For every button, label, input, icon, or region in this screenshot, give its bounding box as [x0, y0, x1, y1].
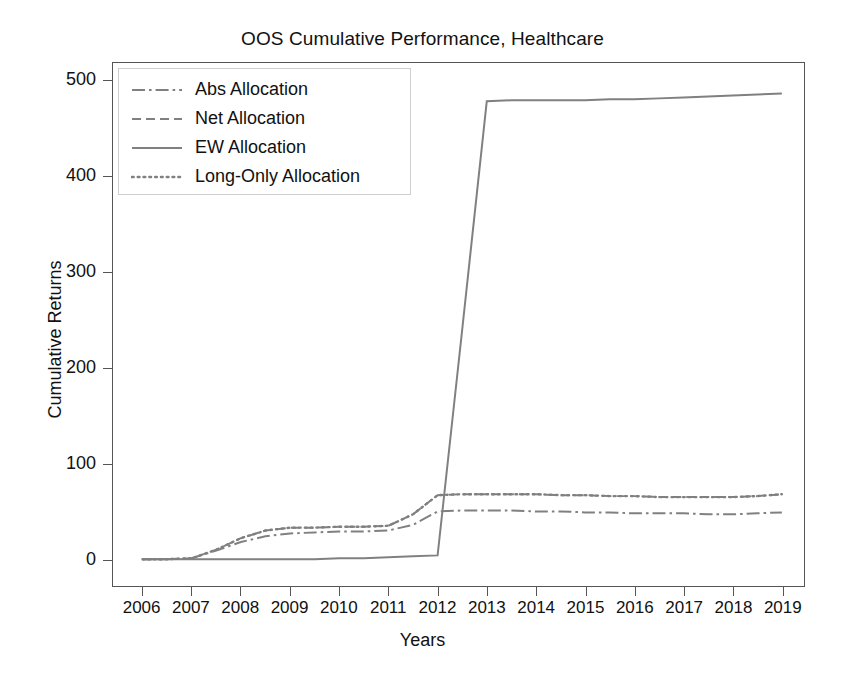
x-tick-label: 2018 — [708, 598, 758, 618]
chart-figure: OOS Cumulative Performance, Healthcare C… — [0, 0, 845, 682]
legend-label: Net Allocation — [195, 108, 305, 129]
x-tick-mark — [142, 587, 143, 596]
legend-item: EW Allocation — [131, 133, 400, 162]
y-tick-mark — [103, 368, 112, 369]
y-tick-mark — [103, 176, 112, 177]
y-tick-label: 400 — [36, 165, 96, 186]
y-tick-mark — [103, 464, 112, 465]
y-axis-tick-labels: 0100200300400500 — [34, 62, 96, 587]
series-line — [143, 494, 782, 559]
x-tick-label: 2009 — [265, 598, 315, 618]
x-axis-tick-marks — [112, 587, 805, 597]
legend-line-icon — [131, 112, 183, 126]
x-tick-mark — [388, 587, 389, 596]
y-tick-mark — [103, 272, 112, 273]
x-axis-tick-labels: 2006200720082009201020112012201320142015… — [112, 598, 805, 624]
x-tick-mark — [339, 587, 340, 596]
y-tick-label: 0 — [36, 549, 96, 570]
x-tick-label: 2013 — [462, 598, 512, 618]
x-tick-mark — [586, 587, 587, 596]
y-tick-mark — [103, 80, 112, 81]
series-line — [143, 494, 782, 559]
legend-line-icon — [131, 141, 183, 155]
x-tick-label: 2016 — [610, 598, 660, 618]
x-tick-mark — [536, 587, 537, 596]
x-tick-label: 2010 — [314, 598, 364, 618]
legend-item: Long-Only Allocation — [131, 162, 400, 191]
x-tick-label: 2019 — [758, 598, 808, 618]
chart-title: OOS Cumulative Performance, Healthcare — [0, 28, 845, 50]
x-tick-label: 2014 — [511, 598, 561, 618]
x-tick-mark — [191, 587, 192, 596]
x-tick-mark — [438, 587, 439, 596]
x-axis-label: Years — [0, 630, 845, 651]
x-tick-label: 2007 — [166, 598, 216, 618]
x-tick-mark — [684, 587, 685, 596]
legend-line-icon — [131, 83, 183, 97]
legend-item: Abs Allocation — [131, 75, 400, 104]
x-tick-mark — [733, 587, 734, 596]
x-tick-label: 2017 — [659, 598, 709, 618]
x-tick-label: 2011 — [363, 598, 413, 618]
legend-line-icon — [131, 170, 183, 184]
x-tick-label: 2015 — [561, 598, 611, 618]
x-tick-mark — [240, 587, 241, 596]
y-tick-label: 100 — [36, 453, 96, 474]
chart-legend: Abs AllocationNet AllocationEW Allocatio… — [118, 68, 411, 195]
x-tick-label: 2006 — [117, 598, 167, 618]
y-tick-label: 200 — [36, 357, 96, 378]
x-tick-mark — [783, 587, 784, 596]
y-tick-label: 300 — [36, 261, 96, 282]
legend-label: Long-Only Allocation — [195, 166, 360, 187]
y-tick-mark — [103, 560, 112, 561]
legend-label: EW Allocation — [195, 137, 306, 158]
x-tick-label: 2012 — [413, 598, 463, 618]
x-tick-mark — [487, 587, 488, 596]
legend-item: Net Allocation — [131, 104, 400, 133]
series-line — [143, 510, 782, 559]
x-tick-mark — [290, 587, 291, 596]
legend-label: Abs Allocation — [195, 79, 308, 100]
x-tick-mark — [635, 587, 636, 596]
y-tick-label: 500 — [36, 69, 96, 90]
x-tick-label: 2008 — [215, 598, 265, 618]
